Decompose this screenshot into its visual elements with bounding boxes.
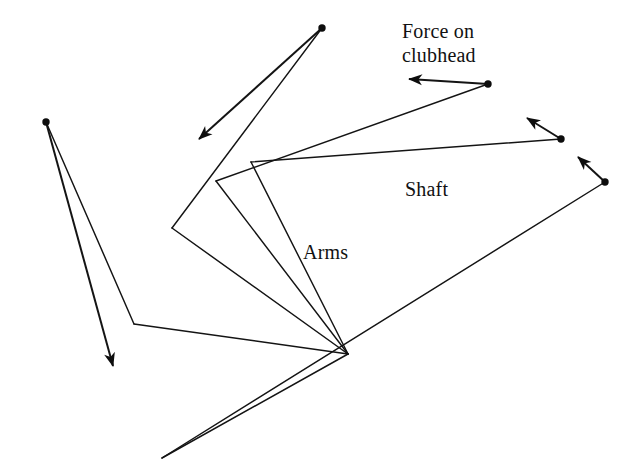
- clubhead-dot-upper-right: [484, 80, 491, 87]
- diagram-canvas: Force on clubhead Shaft Arms: [0, 0, 641, 474]
- force-on-clubhead-label-line-2: clubhead: [402, 44, 476, 66]
- clubhead-dot-lower-right: [601, 178, 608, 185]
- arms-label: Arms: [303, 241, 348, 263]
- force-on-clubhead-label-line-1: Force on: [402, 20, 474, 42]
- shaft-label: Shaft: [405, 178, 448, 200]
- clubhead-dot-backswing-top: [318, 24, 325, 31]
- clubhead-dot-mid-right: [557, 135, 564, 142]
- golf-swing-figure: Force on clubhead Shaft Arms: [0, 0, 641, 474]
- clubhead-dot-downswing-left: [42, 118, 49, 125]
